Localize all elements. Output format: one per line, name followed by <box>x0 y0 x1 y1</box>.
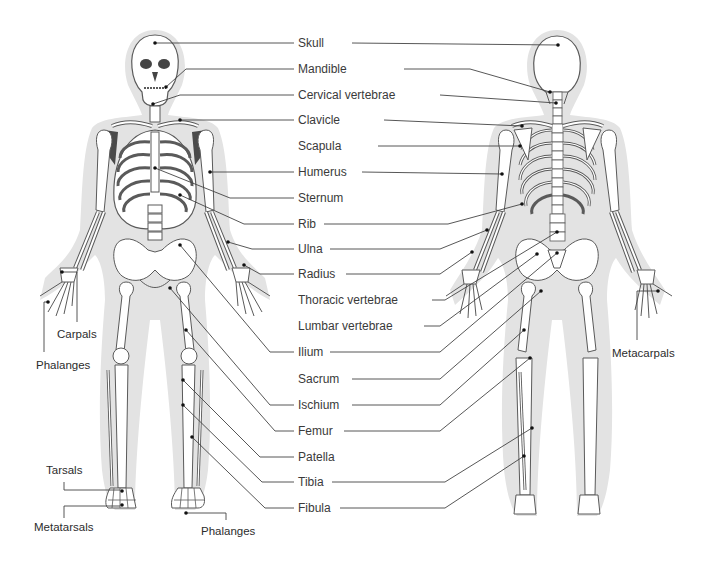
label-sternum: Sternum <box>298 191 343 205</box>
label-clavicle: Clavicle <box>298 113 340 127</box>
label-ilium: Ilium <box>298 345 323 359</box>
label-tibia: Tibia <box>298 475 324 489</box>
label-thoracic-vertebrae: Thoracic vertebrae <box>298 293 398 307</box>
label-skull: Skull <box>298 36 324 50</box>
label-phalanges-hand: Phalanges <box>36 358 90 372</box>
label-rib: Rib <box>298 217 316 231</box>
label-metatarsals: Metatarsals <box>34 520 93 534</box>
skeleton-diagram: Skull Mandible Cervical vertebrae Clavic… <box>0 0 721 563</box>
label-scapula: Scapula <box>298 139 341 153</box>
label-cervical-vertebrae: Cervical vertebrae <box>298 88 395 102</box>
back-skeleton <box>446 30 672 516</box>
label-tarsals: Tarsals <box>46 463 82 477</box>
label-mandible: Mandible <box>298 62 347 76</box>
label-patella: Patella <box>298 450 335 464</box>
label-ulna: Ulna <box>298 242 323 256</box>
label-carpals: Carpals <box>57 327 97 341</box>
label-sacrum: Sacrum <box>298 372 339 386</box>
label-ischium: Ischium <box>298 398 339 412</box>
skeleton-illustration <box>0 0 721 563</box>
label-femur: Femur <box>298 424 333 438</box>
label-lumbar-vertebrae: Lumbar vertebrae <box>298 319 393 333</box>
label-phalanges-foot: Phalanges <box>201 524 255 538</box>
label-metacarpals: Metacarpals <box>612 346 675 360</box>
label-fibula: Fibula <box>298 501 331 515</box>
label-humerus: Humerus <box>298 165 347 179</box>
front-skeleton <box>40 30 270 510</box>
label-radius: Radius <box>298 267 335 281</box>
